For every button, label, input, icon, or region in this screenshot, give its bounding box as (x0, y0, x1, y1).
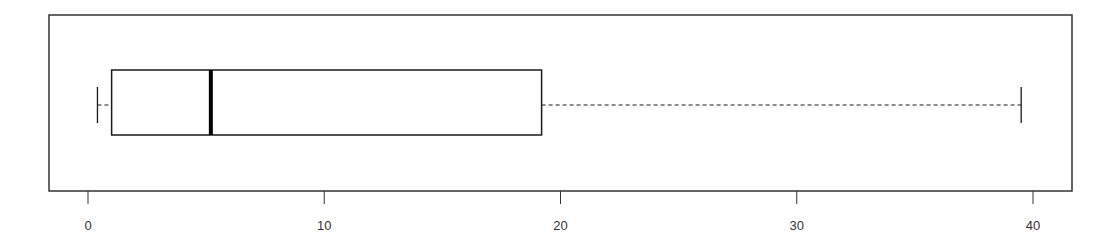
iqr-box (112, 70, 542, 135)
x-tick-label: 30 (790, 218, 804, 233)
x-tick-label: 10 (317, 218, 331, 233)
x-tick-label: 40 (1026, 218, 1040, 233)
x-tick-label: 0 (84, 218, 91, 233)
boxplot-chart: 010203040 (0, 0, 1111, 252)
box-plot (97, 70, 1021, 135)
x-axis: 010203040 (84, 191, 1040, 233)
x-tick-label: 20 (553, 218, 567, 233)
